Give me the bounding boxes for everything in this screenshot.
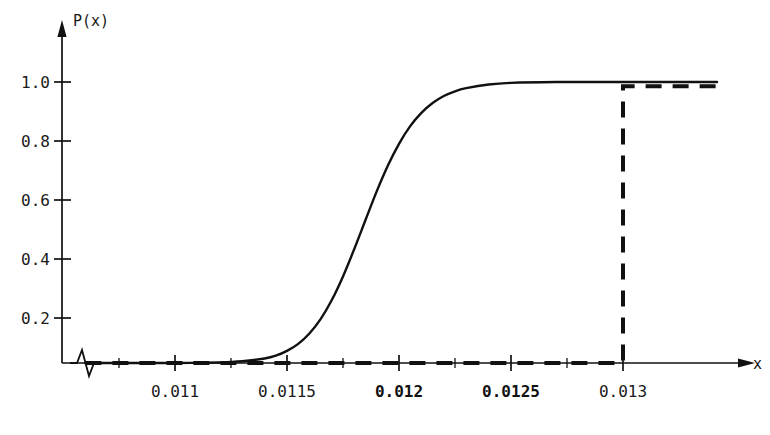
y-tick-label: 0.6 bbox=[21, 191, 50, 210]
x-tick-label: 0.011 bbox=[151, 382, 199, 401]
y-tick-label: 0.8 bbox=[21, 132, 50, 151]
x-tick-labels: 0.011 0.0115 0.012 0.0125 0.013 bbox=[151, 382, 647, 401]
y-tick-label: 1.0 bbox=[21, 73, 50, 92]
y-axis-arrow-icon bbox=[57, 20, 66, 37]
y-tick-label: 0.4 bbox=[21, 250, 50, 269]
chart-canvas: 1.0 0.8 0.6 0.4 0.2 0.011 0.0115 0.012 bbox=[0, 0, 770, 435]
series-empirical-step bbox=[85, 86, 717, 363]
y-tick-labels: 1.0 0.8 0.6 0.4 0.2 bbox=[21, 73, 50, 328]
y-axis-title: P(x) bbox=[73, 12, 109, 30]
x-tick-label: 0.012 bbox=[375, 382, 423, 401]
x-tick-label: 0.0125 bbox=[482, 382, 540, 401]
axes-group bbox=[57, 20, 755, 368]
figure-container: 1.0 0.8 0.6 0.4 0.2 0.011 0.0115 0.012 bbox=[0, 0, 770, 435]
x-tick-label: 0.0115 bbox=[258, 382, 316, 401]
x-axis-title: x bbox=[753, 355, 762, 373]
x-tick-label: 0.013 bbox=[599, 382, 647, 401]
y-tick-label: 0.2 bbox=[21, 309, 50, 328]
